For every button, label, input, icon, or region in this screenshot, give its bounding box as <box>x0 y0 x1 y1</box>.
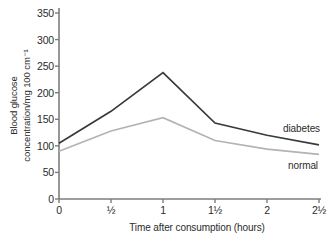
series-label-diabetes: diabetes <box>283 123 320 134</box>
chart-container: Blood glucose concentration/mg 100 cm⁻¹ … <box>0 0 335 243</box>
series-line-normal <box>59 118 319 155</box>
series-label-normal: normal <box>288 160 318 171</box>
series-line-diabetes <box>59 73 319 145</box>
plot-area <box>0 0 335 243</box>
